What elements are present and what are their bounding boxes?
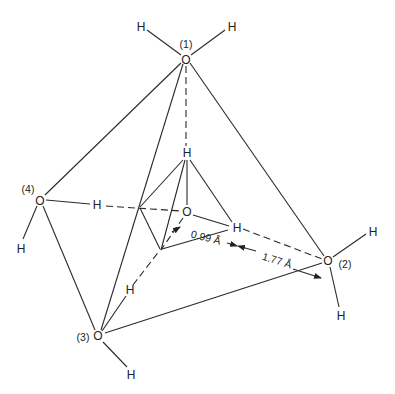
- hydrogen-o1-left: H: [137, 20, 146, 34]
- hydrogen-atoms: H H H H H H H H H H: [17, 20, 378, 382]
- frame-htop-hright: [190, 160, 232, 222]
- oxygen-center: O: [182, 205, 191, 219]
- bond-o3-h-down: [103, 342, 127, 367]
- bond-o1-h-right: [191, 30, 225, 55]
- hydrogen-bonds: [106, 66, 322, 285]
- bond-o2-h-up: [333, 234, 366, 257]
- label-o1: (1): [180, 38, 193, 50]
- arrow-177-end: [293, 269, 321, 278]
- hydrogen-o2-down: H: [337, 309, 346, 323]
- hydrogen-o4-down: H: [17, 242, 26, 256]
- edge-o1-o4: [45, 63, 181, 195]
- oxygen-4: O: [35, 194, 44, 208]
- hbond-h-center-left: [106, 206, 181, 211]
- edge-o4-o3: [43, 206, 95, 330]
- hydrogen-center-right: H: [233, 221, 242, 235]
- arrow-177-start: [238, 246, 256, 251]
- hydrogen-o4-bridge: H: [93, 198, 102, 212]
- hydrogen-o3-down: H: [127, 368, 136, 382]
- oxygen-1: O: [181, 53, 190, 67]
- diagram-canvas: O O O O O H H H H H H H H H H (1) (4) (2…: [0, 0, 395, 394]
- water-tetrahedron-diagram: O O O O O H H H H H H H H H H (1) (4) (2…: [0, 0, 395, 394]
- outer-oh-bonds: [23, 30, 366, 367]
- hbond-h-o2: [243, 229, 322, 259]
- label-o4: (4): [22, 183, 35, 195]
- bond-center-hright: [193, 215, 229, 226]
- bond-o2-h-down: [330, 267, 339, 307]
- outer-tetrahedron: [43, 63, 324, 333]
- hbond-center-lower: [161, 218, 183, 250]
- hbond-h-vertex-lower: [133, 250, 160, 285]
- bond-o1-h-left: [147, 30, 181, 55]
- frame-left-lower: [140, 208, 160, 249]
- edge-o1-o2: [190, 63, 324, 256]
- edge-o1-o3: [101, 64, 183, 330]
- arrow-099-end: [227, 243, 237, 246]
- oxygen-atoms: O O O O O: [35, 53, 332, 343]
- bond-o4-h-down: [23, 206, 37, 239]
- hydrogen-o2-up: H: [369, 225, 378, 239]
- label-o3: (3): [77, 331, 90, 343]
- hydrogen-center-top: H: [183, 146, 192, 160]
- label-o2: (2): [339, 258, 352, 270]
- hydrogen-o1-right: H: [228, 20, 237, 34]
- measurement-covalent-bond: 0.99 Å: [190, 228, 222, 247]
- oxygen-3: O: [93, 329, 102, 343]
- oxygen-2: O: [323, 254, 332, 268]
- hydrogen-o3-bridge: H: [126, 283, 135, 297]
- measurement-hydrogen-bond: 1.77 Å: [261, 250, 294, 270]
- edge-o3-o2: [105, 263, 322, 333]
- bond-o4-h-right: [46, 200, 90, 204]
